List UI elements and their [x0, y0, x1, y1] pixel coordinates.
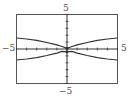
y-min-label: −5: [59, 87, 72, 96]
lower-vertex-dot: [65, 50, 68, 53]
y-max-label: 5: [63, 4, 69, 13]
x-min-label: −5: [2, 44, 15, 53]
graph-plot: [0, 0, 134, 100]
upper-vertex-dot: [65, 47, 68, 50]
x-max-label: 5: [121, 44, 127, 53]
